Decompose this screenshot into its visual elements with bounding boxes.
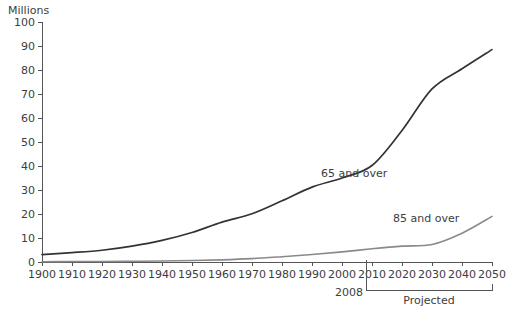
y-axis-tick-label: 50 [21, 136, 35, 149]
x-axis-tick-label: 2000 [328, 268, 356, 281]
x-axis-tick-label: 1950 [178, 268, 206, 281]
series-group: 65 and over85 and over [42, 50, 492, 262]
x-axis-tick-label: 1940 [148, 268, 176, 281]
chart-container: 0102030405060708090100 19001910192019301… [0, 0, 509, 310]
y-axis-tick-label: 40 [21, 160, 35, 173]
x-axis-tick-label: 1910 [58, 268, 86, 281]
x-axis-tick-label: 2010 [358, 268, 386, 281]
x-axis-tick-label: 1990 [298, 268, 326, 281]
x-axis-tick-label: 1930 [118, 268, 146, 281]
y-axis-tick-label: 20 [21, 208, 35, 221]
x-axis-tick-label: 1900 [28, 268, 56, 281]
x-axis-tick-label: 2050 [478, 268, 506, 281]
x-axis-tick-label: 2040 [448, 268, 476, 281]
x-axis-tick-label: 2020 [388, 268, 416, 281]
y-axis-tick-label: 30 [21, 184, 35, 197]
y-axis-group: 0102030405060708090100 [14, 16, 42, 269]
x-axis-tick-label: 1970 [238, 268, 266, 281]
y-axis-tick-label: 90 [21, 40, 35, 53]
projected-bracket [366, 284, 492, 290]
x-axis-group: 1900191019201930194019501960197019801990… [28, 262, 506, 281]
x-axis-tick-label: 1980 [268, 268, 296, 281]
y-axis-tick-label: 100 [14, 16, 35, 29]
projection-start-label: 2008 [335, 286, 363, 299]
y-axis-tick-label: 70 [21, 88, 35, 101]
population-line-chart: 0102030405060708090100 19001910192019301… [0, 0, 509, 310]
y-axis-tick-label: 10 [21, 232, 35, 245]
x-axis-tick-label: 1920 [88, 268, 116, 281]
x-axis-tick-label: 1960 [208, 268, 236, 281]
projected-bracket-label: Projected [403, 294, 454, 307]
y-axis-title: Millions [8, 4, 49, 17]
series-label-1: 85 and over [393, 212, 460, 225]
y-axis-tick-label: 80 [21, 64, 35, 77]
series-label-0: 65 and over [321, 167, 388, 180]
x-axis-tick-label: 2030 [418, 268, 446, 281]
y-axis-tick-label: 60 [21, 112, 35, 125]
